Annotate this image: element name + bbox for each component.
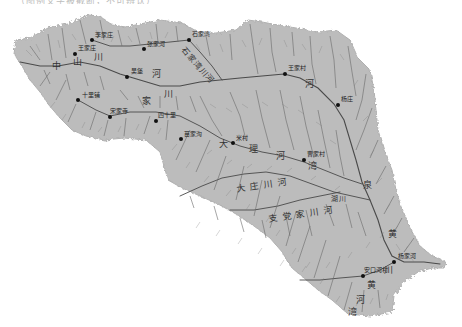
river-label: 川 <box>94 53 108 62</box>
river-label: 家 <box>142 97 156 106</box>
river-label: 湾 <box>348 308 362 317</box>
settlement-label: 杨家河 <box>398 253 416 259</box>
settlement-label: 杨庄 <box>341 96 353 102</box>
settlement-label: 苗家沟 <box>184 131 202 137</box>
river-label: 泉 <box>363 181 377 190</box>
river-label: 中 <box>52 62 66 71</box>
settlement-label: 吴堡 <box>131 68 143 74</box>
settlement-dot <box>283 72 287 76</box>
settlement-dot <box>187 38 191 42</box>
settlement-label: 宋家寺 <box>110 108 128 114</box>
river-label: 湖川 <box>331 196 347 203</box>
settlement-label: 石家湾 <box>192 31 210 37</box>
settlement-dot <box>302 158 306 162</box>
settlement-dot <box>90 38 94 42</box>
settlement-dot <box>154 119 158 123</box>
settlement-label: 曹家村 <box>307 151 325 157</box>
river-label: 河 <box>152 70 166 79</box>
settlement-label: 张家河 <box>147 41 165 47</box>
settlement-dot <box>392 260 396 264</box>
settlement-dot <box>76 98 80 102</box>
settlement-dot <box>361 274 365 278</box>
settlement-label: 四十里 <box>158 112 176 118</box>
river-label: 河 <box>356 296 370 305</box>
river-label: 川 <box>164 90 178 99</box>
river-label: 河 <box>276 152 290 161</box>
settlement-dot <box>179 137 183 141</box>
river-label: 大 <box>219 140 233 149</box>
river-label: 川 <box>384 266 398 275</box>
settlement-dot <box>125 75 129 79</box>
settlement-dot <box>142 47 146 51</box>
river-label: 黄 <box>367 281 381 290</box>
river-label: 理 <box>249 145 263 154</box>
settlement-label: 十里铺 <box>82 92 100 98</box>
river-label: 湾 <box>308 162 322 171</box>
settlement-label: 李家庄 <box>95 32 113 38</box>
river-label: 山 <box>73 58 87 67</box>
river-label: 河 <box>305 80 319 89</box>
settlement-label: 王家庄 <box>78 45 96 51</box>
settlement-label: 王家村 <box>288 65 306 71</box>
settlement-dot <box>108 115 112 119</box>
river-label: 黄 <box>388 230 402 239</box>
watershed-map <box>0 0 462 327</box>
settlement-dot <box>336 103 340 107</box>
settlement-dot <box>73 52 77 56</box>
settlement-label: 米村 <box>236 135 248 141</box>
